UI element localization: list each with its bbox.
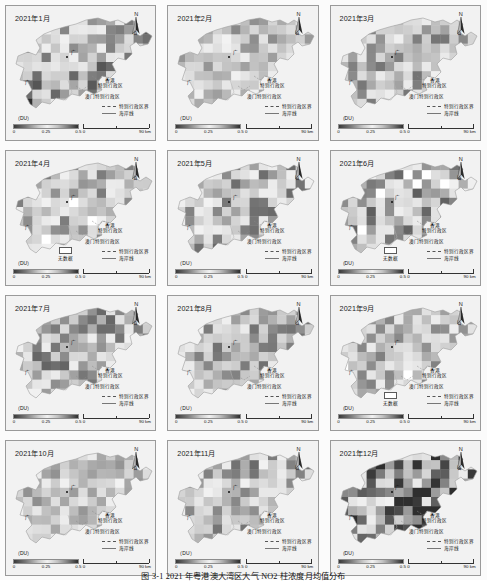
scalebar-tick-end: 90 km bbox=[464, 274, 476, 279]
map-frame: 2021年12月N省广广香港特别行政区澳门特别行政区特别行政区界海岸线（DU）0… bbox=[330, 440, 481, 576]
colorbar-tick-0: 0 bbox=[337, 564, 339, 569]
solid-line-icon bbox=[427, 258, 441, 259]
north-arrow-icon bbox=[294, 162, 304, 180]
nodata-label: 无数据 bbox=[383, 255, 398, 261]
nodata-swatch bbox=[384, 247, 397, 254]
legend-row-boundary: 特别行政区界 bbox=[265, 103, 312, 110]
scalebar: 090 km bbox=[246, 559, 312, 571]
colorbar-unit: （DU） bbox=[177, 259, 194, 266]
map-frame: 2021年3月N省广广香港特别行政区澳门特别行政区特别行政区界海岸线（DU）00… bbox=[330, 5, 481, 141]
colorbar-unit: （DU） bbox=[340, 549, 357, 556]
colorbar-tick-1: 0.25 bbox=[42, 564, 51, 569]
dashed-line-icon bbox=[427, 251, 441, 252]
legend-row-coastline: 海岸线 bbox=[265, 400, 312, 407]
scalebar-ticks: 090 km bbox=[408, 419, 474, 426]
legend-row-coastline: 海岸线 bbox=[102, 255, 149, 262]
north-arrow: N bbox=[454, 11, 468, 37]
map-panel-m01[interactable]: 2021年1月N省广广香港特别行政区澳门特别行政区特别行政区界海岸线（DU）00… bbox=[0, 0, 162, 145]
north-arrow: N bbox=[292, 446, 306, 472]
label-hongkong-line2: 特别行政区 bbox=[98, 83, 123, 88]
label-hongkong: 香港特别行政区 bbox=[92, 223, 128, 233]
legend-label-boundary: 特别行政区界 bbox=[282, 103, 312, 110]
colorbar-tick-2: 0.5 bbox=[75, 419, 81, 424]
solid-line-icon bbox=[265, 403, 279, 404]
map-panel-m07[interactable]: 2021年7月N省广广香港特别行政区澳门特别行政区特别行政区界海岸线（DU）00… bbox=[0, 290, 162, 435]
colorbar-tick-0: 0 bbox=[175, 564, 177, 569]
city-dot-guangzhou bbox=[391, 346, 393, 348]
label-guangzhou: 广 bbox=[68, 195, 78, 200]
map-panel-m05[interactable]: 2021年5月N省广广香港特别行政区澳门特别行政区特别行政区界海岸线（DU）00… bbox=[162, 145, 324, 290]
colorbar-tick-0: 0 bbox=[337, 129, 339, 134]
nodata-label: 无数据 bbox=[383, 400, 398, 406]
colorbar: （DU）00.250.5 bbox=[175, 124, 241, 136]
colorbar-unit: （DU） bbox=[177, 114, 194, 121]
scalebar-tick-end: 90 km bbox=[301, 274, 313, 279]
map-panel-m10[interactable]: 2021年10月N省广广香港特别行政区澳门特别行政区特别行政区界海岸线（DU）0… bbox=[0, 435, 162, 580]
solid-line-icon bbox=[102, 258, 116, 259]
label-hongkong-line2: 特别行政区 bbox=[422, 228, 447, 233]
legend-row-boundary: 特别行政区界 bbox=[427, 248, 474, 255]
map-panel-m11[interactable]: 2021年11月N省广广香港特别行政区澳门特别行政区特别行政区界海岸线（DU）0… bbox=[162, 435, 324, 580]
label-shenzhen: 广 bbox=[184, 370, 194, 375]
nodata-swatch bbox=[59, 247, 72, 254]
colorbar-tick-2: 0.5 bbox=[238, 419, 244, 424]
map-panel-m02[interactable]: 2021年2月N省广广香港特别行政区澳门特别行政区特别行政区界海岸线（DU）00… bbox=[162, 0, 324, 145]
colorbar-ticks: 00.250.5 bbox=[338, 129, 404, 136]
solid-line-icon bbox=[265, 113, 279, 114]
scalebar: 090 km bbox=[246, 124, 312, 136]
scalebar-ticks: 090 km bbox=[246, 274, 312, 281]
scalebar: 090 km bbox=[83, 414, 149, 426]
map-panel-m09[interactable]: 2021年9月N省广广香港特别行政区澳门特别行政区特别行政区界海岸线无数据（DU… bbox=[325, 290, 487, 435]
map-panel-m04[interactable]: 2021年4月N省广广香港特别行政区澳门特别行政区特别行政区界海岸线无数据（DU… bbox=[0, 145, 162, 290]
dashed-line-icon bbox=[102, 106, 116, 107]
colorbar-tick-1: 0.25 bbox=[366, 564, 375, 569]
north-arrow: N bbox=[454, 156, 468, 182]
north-arrow-icon bbox=[294, 17, 304, 35]
colorbar-tick-2: 0.5 bbox=[238, 129, 244, 134]
scalebar-ticks: 090 km bbox=[246, 419, 312, 426]
map-panel-m03[interactable]: 2021年3月N省广广香港特别行政区澳门特别行政区特别行政区界海岸线（DU）00… bbox=[325, 0, 487, 145]
label-macao: 澳门特别行政区 bbox=[80, 529, 124, 534]
label-guangzhou: 广 bbox=[393, 195, 403, 200]
label-shenzhen: 广 bbox=[347, 225, 357, 230]
map-frame: 2021年11月N省广广香港特别行政区澳门特别行政区特别行政区界海岸线（DU）0… bbox=[167, 440, 318, 576]
scalebar-tick-start: 0 bbox=[245, 274, 247, 279]
map-panel-m12[interactable]: 2021年12月N省广广香港特别行政区澳门特别行政区特别行政区界海岸线（DU）0… bbox=[325, 435, 487, 580]
label-hongkong-line2: 特别行政区 bbox=[422, 83, 447, 88]
solid-line-icon bbox=[102, 548, 116, 549]
colorbar-unit: （DU） bbox=[340, 114, 357, 121]
scalebar-ticks: 090 km bbox=[83, 274, 149, 281]
colorbar-tick-0: 0 bbox=[13, 564, 15, 569]
nodata-legend: 无数据 bbox=[383, 392, 398, 406]
scalebar: 090 km bbox=[408, 559, 474, 571]
north-arrow: N bbox=[292, 11, 306, 37]
colorbar: （DU）00.250.5 bbox=[338, 559, 404, 571]
legend-row-boundary: 特别行政区界 bbox=[427, 103, 474, 110]
label-hongkong: 香港特别行政区 bbox=[254, 513, 290, 523]
city-dot-guangzhou bbox=[391, 491, 393, 493]
scalebar: 090 km bbox=[246, 414, 312, 426]
scalebar-tick-end: 90 km bbox=[139, 419, 151, 424]
label-macao: 澳门特别行政区 bbox=[80, 384, 124, 389]
panel-title: 2021年6月 bbox=[340, 158, 375, 168]
scalebar-tick-start: 0 bbox=[407, 274, 409, 279]
colorbar-ticks: 00.250.5 bbox=[175, 129, 241, 136]
nodata-label: 无数据 bbox=[58, 255, 73, 261]
label-hongkong-line2: 特别行政区 bbox=[260, 228, 285, 233]
scalebar-ticks: 090 km bbox=[83, 419, 149, 426]
scalebar-tick-start: 0 bbox=[407, 419, 409, 424]
legend-label-coastline: 海岸线 bbox=[282, 400, 297, 407]
map-panel-m06[interactable]: 2021年6月N省广广香港特别行政区澳门特别行政区特别行政区界海岸线无数据（DU… bbox=[325, 145, 487, 290]
north-arrow: N bbox=[129, 11, 143, 37]
legend-label-boundary: 特别行政区界 bbox=[444, 248, 474, 255]
colorbar-unit: （DU） bbox=[340, 259, 357, 266]
map-panel-m08[interactable]: 2021年8月N省广广香港特别行政区澳门特别行政区特别行政区界海岸线（DU）00… bbox=[162, 290, 324, 435]
north-arrow: N bbox=[454, 301, 468, 327]
colorbar-tick-0: 0 bbox=[175, 129, 177, 134]
map-frame: 2021年4月N省广广香港特别行政区澳门特别行政区特别行政区界海岸线无数据（DU… bbox=[5, 150, 156, 286]
north-arrow: N bbox=[454, 446, 468, 472]
legend-row-coastline: 海岸线 bbox=[427, 110, 474, 117]
north-arrow-icon bbox=[456, 307, 466, 325]
colorbar-ticks: 00.250.5 bbox=[338, 564, 404, 571]
label-guangzhou: 广 bbox=[68, 340, 78, 345]
